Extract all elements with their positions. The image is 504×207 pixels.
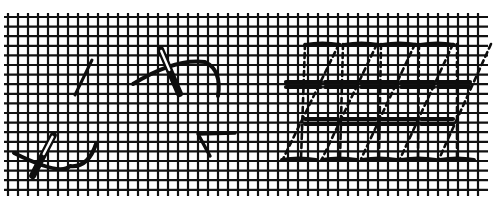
canvas-mesh-grid [4, 13, 488, 196]
top-stitch-bar [382, 44, 417, 46]
bottom-stitch-bar [322, 159, 357, 161]
top-stitch-bar [344, 44, 379, 46]
stitch-diagram [0, 0, 504, 207]
bottom-stitch-bar [362, 159, 397, 161]
bottom-stitch-bar [440, 159, 474, 161]
needle-shaft [28, 131, 58, 181]
step4-corner-stitch [198, 133, 235, 156]
bottom-stitch-bar [282, 159, 316, 161]
top-stitch-bar [420, 44, 454, 46]
step3-needle-icon [28, 131, 58, 181]
bottom-stitch-bar [401, 159, 436, 161]
step3-curved-thread [14, 144, 96, 169]
top-stitch-bar [305, 44, 340, 46]
